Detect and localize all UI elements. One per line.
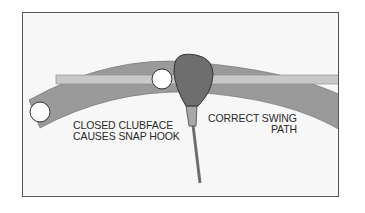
club-ferrule (186, 106, 197, 126)
correct-path-line1: CORRECT SWING (208, 113, 297, 124)
golf-ball-left (30, 102, 50, 122)
golf-ball-center (152, 69, 172, 89)
club-shaft-edge (193, 125, 200, 183)
closed-clubface-line2: CAUSES SNAP HOOK (73, 131, 180, 142)
swing-diagram (0, 0, 365, 213)
correct-path-line2: PATH (208, 124, 297, 135)
clubhead (174, 54, 213, 106)
closed-clubface-line1: CLOSED CLUBFACE (73, 120, 180, 131)
correct-path-label: CORRECT SWING PATH (208, 113, 297, 134)
closed-clubface-label: CLOSED CLUBFACE CAUSES SNAP HOOK (73, 120, 180, 141)
